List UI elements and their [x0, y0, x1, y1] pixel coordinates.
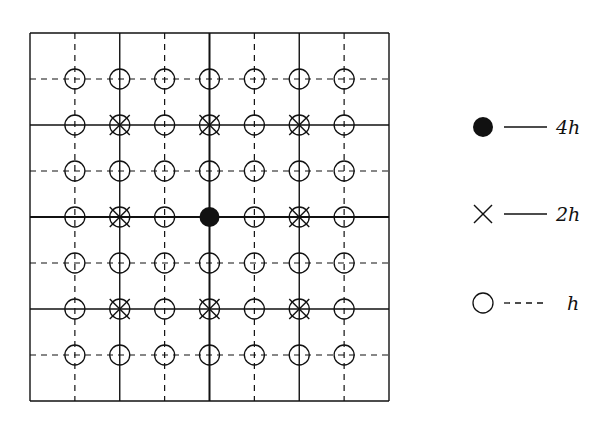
legend-item-4h: 4h	[473, 116, 580, 138]
filled-circle-icon	[473, 117, 493, 137]
legend-label-4h: 4h	[555, 116, 580, 138]
legend-item-h: h	[473, 292, 579, 314]
filled-node-icon	[200, 207, 220, 227]
open-circle-icon	[473, 293, 493, 313]
legend: 4h 2h h	[473, 116, 580, 314]
legend-label-h: h	[567, 292, 579, 314]
multigrid-diagram: 4h 2h h	[0, 0, 603, 424]
cross-icon	[474, 205, 492, 223]
legend-item-2h: 2h	[474, 203, 580, 225]
legend-label-2h: 2h	[555, 203, 580, 225]
